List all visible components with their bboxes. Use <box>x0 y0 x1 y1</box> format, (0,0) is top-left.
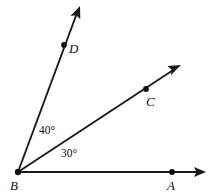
ray-bc <box>18 65 181 172</box>
point-d-dot <box>61 42 67 48</box>
angle-cbd-label: 40° <box>39 124 56 136</box>
point-c-label: C <box>146 94 155 109</box>
point-d-label: D <box>68 41 79 56</box>
angle-abc-label: 30° <box>61 147 78 159</box>
ray-ba <box>18 167 206 177</box>
angle-diagram: B A C D 30° 40° <box>0 0 212 194</box>
point-b-label: B <box>10 178 18 193</box>
ray-bc-arrowhead <box>168 65 182 75</box>
point-a-dot <box>169 169 175 175</box>
geometry-canvas: B A C D 30° 40° <box>0 0 212 194</box>
ray-bc-line <box>18 70 174 173</box>
point-c-dot <box>143 86 149 92</box>
point-b-dot <box>15 169 21 175</box>
point-a-label: A <box>166 178 175 193</box>
